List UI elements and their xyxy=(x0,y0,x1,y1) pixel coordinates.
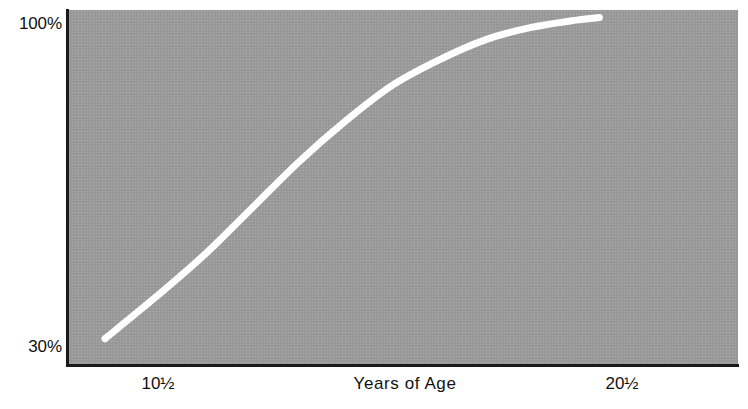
x-axis-line xyxy=(66,364,739,367)
x-axis-tick-label-right: 20½ xyxy=(572,374,672,394)
x-axis-tick-label-left: 10½ xyxy=(108,374,208,394)
y-axis-tick-label-bottom: 30% xyxy=(0,337,62,357)
x-axis-title: Years of Age xyxy=(330,374,480,394)
y-axis-tick-label-top: 100% xyxy=(0,14,62,34)
chart-figure: 100% 30% 10½ Years of Age 20½ xyxy=(0,0,748,409)
series-layer xyxy=(68,10,738,364)
growth-curve-path xyxy=(105,18,599,339)
growth-curve-svg xyxy=(68,10,738,364)
